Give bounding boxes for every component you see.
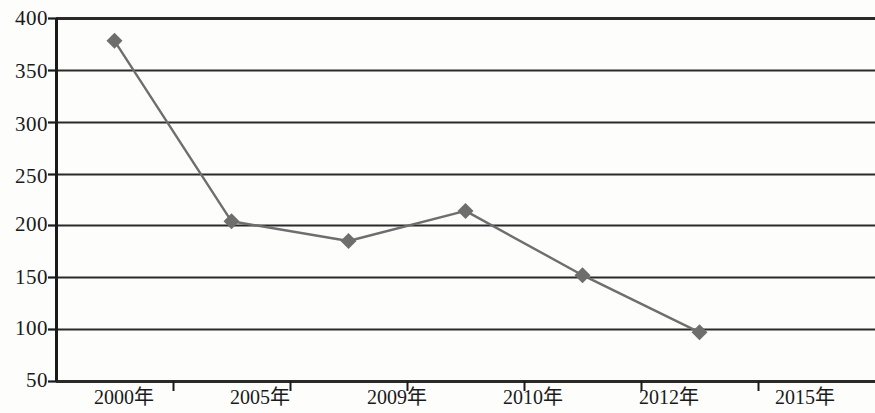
data-point-marker	[458, 203, 474, 219]
gridlines	[56, 19, 875, 382]
line-chart: 400 350 300 250 200 150 100 50 2000年 200…	[0, 0, 875, 413]
data-point-marker	[341, 233, 357, 249]
data-point-markers	[107, 33, 708, 340]
data-point-marker	[575, 267, 591, 283]
data-point-marker	[224, 213, 240, 229]
plot-area	[0, 0, 875, 413]
data-line	[115, 41, 700, 333]
y-axis-tick-marks	[48, 19, 56, 382]
data-point-marker	[107, 33, 123, 49]
data-point-marker	[692, 324, 708, 340]
